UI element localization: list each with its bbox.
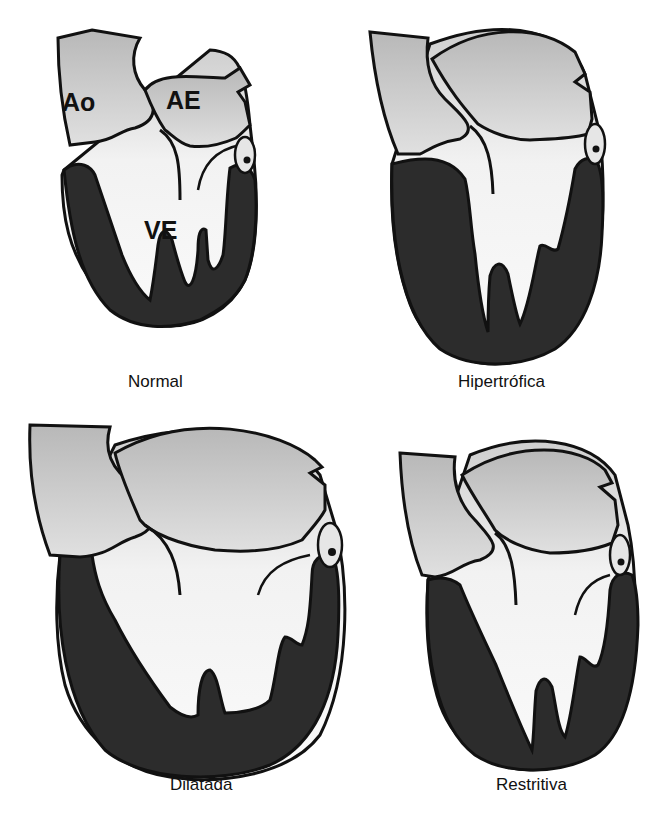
normal-heart-illustration bbox=[40, 30, 280, 370]
heart-panel-restrictive: Restritiva bbox=[400, 425, 650, 795]
heart-panel-normal: Ao AE VE Normal bbox=[40, 30, 280, 370]
panel-label-normal: Normal bbox=[128, 372, 183, 392]
figure-caption-truncated bbox=[0, 803, 669, 823]
panel-label-dilated: Dilatada bbox=[170, 775, 232, 795]
heart-panel-dilated: Dilatada bbox=[20, 415, 350, 795]
panel-label-hypertrophic: Hipertrófica bbox=[458, 372, 545, 392]
restrictive-heart-illustration bbox=[400, 425, 650, 795]
label-aorta: Ao bbox=[62, 88, 95, 117]
panel-label-restrictive: Restritiva bbox=[496, 775, 567, 795]
hypertrophic-heart-illustration bbox=[370, 14, 630, 384]
label-left-ventricle: VE bbox=[144, 216, 177, 245]
heart-panel-hypertrophic: Hipertrófica bbox=[370, 14, 630, 384]
dilated-heart-illustration bbox=[20, 415, 350, 795]
label-left-atrium: AE bbox=[166, 86, 201, 115]
